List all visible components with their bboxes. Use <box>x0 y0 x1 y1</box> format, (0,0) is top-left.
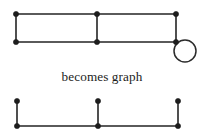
vertex-dot <box>13 11 18 16</box>
vertex-dot <box>175 98 180 103</box>
vertex-dot <box>94 39 99 44</box>
caption-becomes-graph: becomes graph <box>62 69 143 84</box>
graph-figure-canvas: becomes graph <box>0 0 211 137</box>
vertex-dot <box>14 98 19 103</box>
vertex-dot <box>95 123 100 128</box>
vertex-dot <box>95 98 100 103</box>
vertex-dot <box>13 39 18 44</box>
vertex-dot <box>175 123 180 128</box>
vertex-dot <box>173 39 178 44</box>
vertex-dot <box>14 123 19 128</box>
vertex-dot <box>94 11 99 16</box>
figure-container: becomes graph <box>0 0 211 137</box>
vertex-dot <box>173 11 178 16</box>
